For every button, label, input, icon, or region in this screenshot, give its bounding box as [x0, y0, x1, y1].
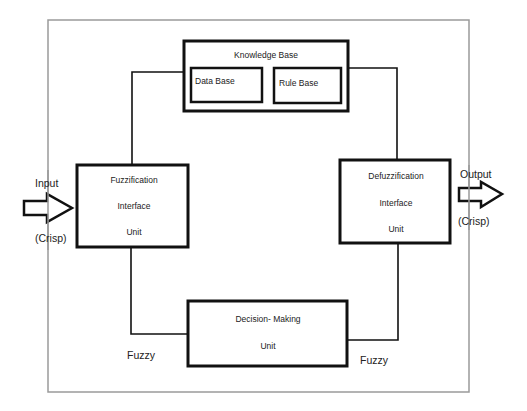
output-type-label: (Crisp): [458, 216, 490, 227]
fuzzy-left-label: Fuzzy: [127, 350, 155, 361]
defuzzification-line-2: Interface: [379, 199, 412, 208]
output-arrow-icon: [459, 182, 502, 207]
connector-fuzzification-to-decision: [131, 247, 187, 334]
connector-kb-to-defuzzification: [348, 68, 397, 159]
input-label: Input: [35, 178, 58, 189]
fuzzification-line-3: Unit: [126, 228, 141, 237]
fuzzy-right-label: Fuzzy: [360, 355, 388, 366]
decision-making-box: [188, 301, 347, 366]
fuzzification-line-2: Interface: [117, 202, 150, 211]
connector-decision-to-defuzzification: [347, 243, 398, 340]
defuzzification-line-1: Defuzzification: [368, 172, 423, 181]
data-base-label: Data Base: [195, 77, 235, 86]
defuzzification-line-3: Unit: [388, 225, 403, 234]
fuzzification-line-1: Fuzzification: [110, 176, 157, 185]
decision-making-line-1: Decision- Making: [235, 315, 300, 324]
output-label: Output: [460, 169, 492, 180]
knowledge-base-label: Knowledge Base: [234, 51, 298, 60]
connector-kb-to-fuzzification: [132, 72, 183, 164]
decision-making-line-2: Unit: [260, 342, 275, 351]
input-type-label: (Crisp): [35, 233, 67, 244]
rule-base-label: Rule Base: [279, 79, 318, 88]
